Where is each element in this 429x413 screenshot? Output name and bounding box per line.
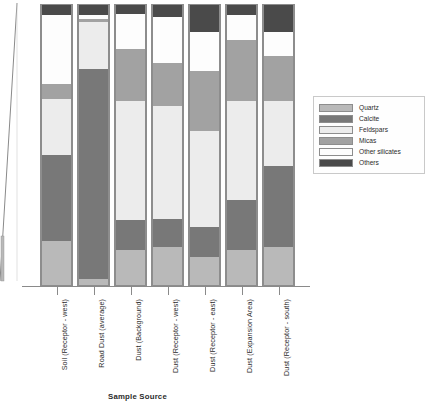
bar-segment[interactable]	[263, 5, 294, 32]
x-axis-title: Sample Source	[108, 392, 167, 401]
bar-segment[interactable]	[263, 101, 294, 166]
x-axis-tick	[131, 286, 132, 295]
bar-stack[interactable]	[262, 4, 295, 286]
bar-segment[interactable]	[115, 250, 146, 285]
bar-segment[interactable]	[41, 155, 72, 242]
bar-segment[interactable]	[115, 101, 146, 220]
bar-segment[interactable]	[41, 99, 72, 155]
legend-label: Others	[359, 159, 379, 166]
bar-segment[interactable]	[226, 15, 257, 40]
legend-label: Quartz	[359, 104, 379, 111]
bar-segment[interactable]	[78, 279, 109, 285]
x-axis-label: Dust (Receptor - south)	[282, 299, 291, 376]
bar-segment[interactable]	[78, 22, 109, 68]
bar-stack[interactable]	[77, 4, 110, 286]
bar-segment[interactable]	[152, 5, 183, 17]
bar-segment[interactable]	[226, 250, 257, 285]
legend-item[interactable]: Feldspars	[319, 124, 420, 135]
bar-segment[interactable]	[152, 17, 183, 62]
bar-segment[interactable]	[152, 106, 183, 220]
bar-segment[interactable]	[189, 32, 220, 70]
legend-swatch-icon	[319, 159, 353, 167]
bar-segment[interactable]	[226, 200, 257, 250]
x-axis-label: Soil (Receptor - west)	[60, 299, 69, 370]
bar-stack[interactable]	[114, 4, 147, 286]
legend-label: Calcite	[359, 115, 379, 122]
bar-segment[interactable]	[115, 14, 146, 48]
x-axis-tick	[242, 286, 243, 295]
legend-item[interactable]: Other silicates	[319, 146, 420, 157]
x-axis-label: Dust (Background)	[134, 299, 143, 361]
bar-stack[interactable]	[151, 4, 184, 286]
x-axis-label: Dust (Receptor - east)	[208, 299, 217, 372]
bar-segment[interactable]	[78, 69, 109, 279]
legend-item[interactable]: Others	[319, 157, 420, 168]
bar-segment[interactable]	[152, 219, 183, 246]
x-axis-tick	[168, 286, 169, 295]
bar-segment[interactable]	[189, 257, 220, 285]
x-axis-tick	[94, 286, 95, 295]
legend-swatch-icon	[319, 115, 353, 123]
x-axis-tick	[57, 286, 58, 295]
bar-segment[interactable]	[226, 101, 257, 200]
legend-swatch-icon	[319, 137, 353, 145]
legend-swatch-icon	[319, 104, 353, 112]
x-axis-tick	[279, 286, 280, 295]
legend-item[interactable]: Micas	[319, 135, 420, 146]
bar-segment[interactable]	[78, 5, 109, 15]
bar-segment[interactable]	[152, 247, 183, 285]
bar-stack[interactable]	[40, 4, 73, 286]
bar-segment[interactable]	[189, 131, 220, 227]
legend-item[interactable]: Calcite	[319, 113, 420, 124]
x-axis-label: Road Dust (average)	[97, 299, 106, 368]
bar-segment[interactable]	[263, 56, 294, 101]
bar-segment[interactable]	[152, 63, 183, 106]
bar-segment[interactable]	[226, 40, 257, 100]
plot-area	[22, 4, 310, 286]
x-axis-label: Dust (Expansion Area)	[245, 299, 254, 373]
bar-segment[interactable]	[263, 32, 294, 55]
chart-legend: QuartzCalciteFeldsparsMicasOther silicat…	[313, 96, 425, 174]
bar-segment[interactable]	[41, 15, 72, 83]
legend-swatch-icon	[319, 148, 353, 156]
bar-stack[interactable]	[188, 4, 221, 286]
legend-swatch-icon	[319, 126, 353, 134]
x-axis-label: Dust (Receptor - west)	[171, 299, 180, 373]
x-axis-line	[22, 286, 310, 287]
legend-label: Micas	[359, 137, 376, 144]
bar-segment[interactable]	[189, 5, 220, 32]
legend-item[interactable]: Quartz	[319, 102, 420, 113]
bar-segment[interactable]	[263, 166, 294, 247]
bar-segment[interactable]	[226, 5, 257, 15]
bar-segment[interactable]	[41, 5, 72, 15]
bar-stack[interactable]	[225, 4, 258, 286]
bar-segment[interactable]	[115, 49, 146, 101]
x-axis-tick	[205, 286, 206, 295]
legend-label: Feldspars	[359, 126, 388, 133]
bar-segment[interactable]	[115, 5, 146, 14]
legend-label: Other silicates	[359, 148, 401, 155]
bar-segment[interactable]	[263, 247, 294, 285]
bar-segment[interactable]	[41, 241, 72, 285]
bar-segment[interactable]	[189, 71, 220, 131]
stacked-bar-chart: Sample Source QuartzCalciteFeldsparsMica…	[0, 0, 429, 413]
bar-segment[interactable]	[189, 227, 220, 257]
bar-segment[interactable]	[41, 84, 72, 99]
bar-segment[interactable]	[115, 220, 146, 250]
